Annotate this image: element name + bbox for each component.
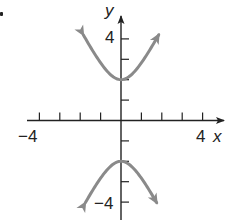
x-tick-label-4: 4 [196, 128, 205, 145]
y-tick-label-neg4: −4 [94, 195, 113, 212]
y-axis-label: y [105, 2, 114, 19]
hyperbola-graph: y 4 −4 −4 4 x [0, 0, 229, 224]
plot-area [0, 0, 229, 224]
x-tick-label-neg4: −4 [18, 128, 37, 145]
axes [27, 16, 224, 220]
y-tick-label-4: 4 [105, 29, 114, 46]
x-axis-label: x [213, 128, 222, 145]
